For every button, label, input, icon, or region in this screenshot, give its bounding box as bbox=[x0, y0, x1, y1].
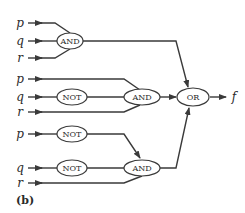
not-gate-3p: NOT bbox=[57, 126, 87, 142]
wires-group3 bbox=[28, 108, 189, 183]
input-r-1: r bbox=[17, 51, 24, 65]
and-gate-1: AND bbox=[57, 33, 83, 49]
and-gate-2-label: AND bbox=[131, 93, 151, 102]
figure-caption: (b) bbox=[16, 194, 34, 207]
input-r-3: r bbox=[17, 176, 24, 190]
input-q-3: q bbox=[16, 161, 24, 175]
not-gate-3p-label: NOT bbox=[63, 130, 83, 139]
or-gate: OR bbox=[177, 88, 209, 106]
input-q-2: q bbox=[16, 90, 24, 104]
and-gate-3: AND bbox=[124, 160, 160, 176]
not-gate-3q: NOT bbox=[57, 160, 87, 176]
input-q-1: q bbox=[16, 34, 24, 48]
or-gate-label: OR bbox=[187, 93, 201, 102]
and-gate-3-label: AND bbox=[131, 164, 151, 173]
not-gate-3q-label: NOT bbox=[63, 164, 83, 173]
input-r-2: r bbox=[17, 105, 24, 119]
logic-circuit-diagram: p q r AND p q r NOT bbox=[0, 0, 245, 213]
input-p-3: p bbox=[16, 127, 24, 141]
and-gate-1-label: AND bbox=[59, 37, 79, 46]
input-p-2: p bbox=[16, 72, 24, 86]
wires-group1 bbox=[28, 23, 188, 87]
not-gate-2-label: NOT bbox=[63, 93, 83, 102]
and-gate-2: AND bbox=[124, 89, 160, 105]
output-f: f bbox=[231, 90, 239, 104]
not-gate-2: NOT bbox=[57, 89, 87, 105]
input-p-1: p bbox=[16, 16, 24, 30]
